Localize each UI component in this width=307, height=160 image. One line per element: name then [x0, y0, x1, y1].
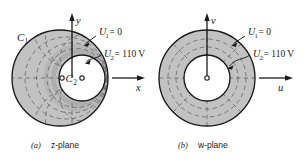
- y-axis-arrow-head-icon: [69, 13, 74, 21]
- figure-root: C 1 C 2 y x U 1 = 0 U 2 = 110 V (a) z-pl…: [0, 0, 307, 160]
- panel-a-c1-subscript: 1: [25, 38, 29, 46]
- panel-b-caption-tag: (b): [178, 140, 188, 150]
- panel-a-x-axis-label: x: [135, 82, 141, 93]
- conformal-mapping-figure: C 1 C 2 y x U 1 = 0 U 2 = 110 V (a) z-pl…: [0, 0, 307, 160]
- panel-a-caption-tag: (a): [31, 140, 41, 150]
- panel-a-inner-center-marker: [80, 76, 84, 80]
- panel-a-u1-value: = 0: [110, 27, 123, 37]
- panel-a-origin-marker: [60, 76, 64, 80]
- panel-b-u-axis-label: u: [278, 82, 283, 93]
- panel-b-u2-value: = 110 V: [264, 49, 295, 59]
- panel-a-y-axis-label: y: [75, 15, 81, 26]
- panel-b-u1-subscript: 1: [254, 32, 257, 39]
- panel-a-annotation-u1: U 1 = 0: [99, 26, 122, 39]
- panel-a-caption-text: z-plane: [51, 140, 79, 150]
- panel-a-z-plane: C 1 C 2 y x U 1 = 0 U 2 = 110 V (a) z-pl…: [10, 0, 145, 160]
- panel-a-c2-subscript: 2: [73, 79, 77, 87]
- panel-b-annotation-u1: U 1 = 0: [248, 26, 271, 39]
- x-axis-arrow-head-icon: [137, 75, 145, 80]
- panel-b-caption-text: w-plane: [197, 140, 228, 150]
- panel-a-u2-value: = 110 V: [115, 49, 146, 59]
- panel-b-origin-marker: [205, 76, 209, 80]
- panel-b-u1-value: = 0: [259, 27, 272, 37]
- panel-a-u1-subscript: 1: [105, 32, 108, 39]
- panel-b-w-plane: v u U 1 = 0 U 2 = 110 V (b) w-plane: [159, 13, 294, 150]
- panel-a-annotation-u2: U 2 = 110 V: [104, 48, 145, 61]
- panel-b-annotation-u2: U 2 = 110 V: [253, 48, 294, 61]
- u-axis-arrow-head-icon: [285, 75, 293, 80]
- v-axis-arrow-head-icon: [204, 13, 209, 21]
- panel-b-v-axis-label: v: [211, 15, 216, 26]
